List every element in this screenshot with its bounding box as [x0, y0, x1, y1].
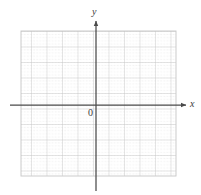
x-axis-label: x [190, 99, 194, 109]
coordinate-plane-figure: y x 0 [0, 0, 201, 195]
origin-label: 0 [88, 108, 93, 118]
grid-area [21, 31, 176, 176]
grid-group [21, 31, 176, 176]
y-axis-label: y [92, 7, 96, 17]
coordinate-plane-svg [0, 0, 201, 195]
